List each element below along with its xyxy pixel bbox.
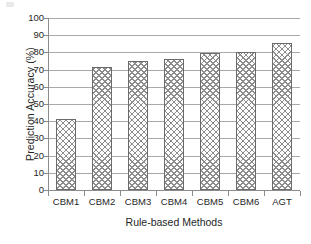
gridline [48,35,300,36]
y-tick-mark [44,104,48,105]
y-tick-label: 0 [20,185,44,195]
bar [164,59,184,190]
bar [92,67,112,190]
y-tick-mark [44,52,48,53]
y-tick-mark [44,70,48,71]
y-tick-label: 80 [20,47,44,57]
y-tick-label: 50 [20,99,44,109]
gridline [48,52,300,53]
bar [272,43,292,190]
y-tick-mark [44,87,48,88]
bar [200,53,220,190]
y-tick-label: 30 [20,133,44,143]
y-tick-mark [44,35,48,36]
x-tick-label: AGT [261,196,303,207]
y-tick-mark [44,18,48,19]
y-tick-label: 40 [20,116,44,126]
bar [236,52,256,190]
y-tick-label: 20 [20,151,44,161]
y-tick-mark [44,138,48,139]
bar-chart-figure: Prediction Accuracy (%) 1009080706050403… [0,0,311,244]
gridline [48,18,300,19]
y-tick-label: 10 [20,168,44,178]
bar [128,61,148,190]
plot-area [48,18,300,190]
y-axis-line [48,18,49,191]
y-tick-label: 60 [20,82,44,92]
y-tick-mark [44,173,48,174]
x-axis-line [48,190,300,191]
y-tick-mark [44,121,48,122]
y-tick-label: 70 [20,65,44,75]
bar [56,119,76,190]
y-tick-mark [44,156,48,157]
y-tick-label: 90 [20,30,44,40]
x-axis-title: Rule-based Methods [48,216,300,228]
y-tick-label: 100 [20,13,44,23]
scan-artifact [6,2,14,7]
